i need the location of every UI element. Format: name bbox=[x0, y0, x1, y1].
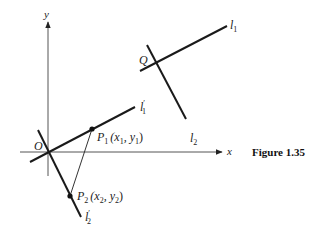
point-p1-label: P1(x1, y1) bbox=[96, 130, 143, 146]
line-l2 bbox=[147, 45, 186, 119]
origin-label: O bbox=[34, 139, 43, 153]
line-l1-label: l1 bbox=[230, 18, 237, 34]
line-l1 bbox=[140, 26, 227, 71]
line-l2-label: l2 bbox=[190, 131, 197, 147]
line-l2-prime-label: l′2 bbox=[85, 209, 91, 226]
line-l2-prime bbox=[38, 130, 81, 217]
diagram-svg: y x O Q l1 l2 l′1 l′2 P1(x1, y1) P2(x2, … bbox=[0, 0, 319, 235]
point-p1 bbox=[89, 126, 94, 131]
point-p2-label: P2(x2, y2) bbox=[76, 189, 123, 205]
figure-caption: Figure 1.35 bbox=[252, 146, 305, 158]
point-p2 bbox=[67, 193, 72, 198]
figure-canvas: y x O Q l1 l2 l′1 l′2 P1(x1, y1) P2(x2, … bbox=[0, 0, 319, 235]
line-l1-prime-label: l′1 bbox=[140, 99, 146, 116]
x-axis-label: x bbox=[226, 145, 232, 157]
y-axis-label: y bbox=[43, 8, 49, 20]
point-q-label: Q bbox=[139, 53, 148, 67]
